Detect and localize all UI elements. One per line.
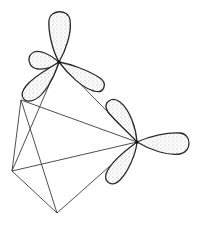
lobe-right-upleft bbox=[106, 100, 137, 142]
lobe-top-up bbox=[49, 12, 71, 62]
lobe-right-right bbox=[137, 133, 189, 155]
right-atom-orbitals bbox=[106, 100, 189, 184]
top-atom-orbitals bbox=[22, 12, 104, 101]
top-atom-node bbox=[57, 60, 60, 63]
right-atom-node bbox=[135, 140, 138, 143]
orbital-diagram-svg bbox=[0, 0, 199, 225]
orbital-diagram: Polyhedral framework with two vertices b… bbox=[0, 0, 199, 225]
lobe-top-rightdown bbox=[59, 62, 104, 92]
